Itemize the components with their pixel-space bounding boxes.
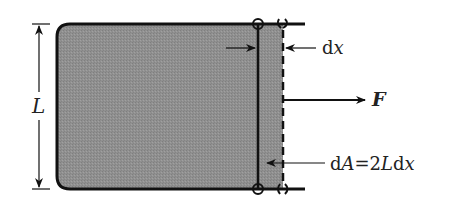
dx-label: dx: [322, 37, 344, 58]
film-increment-dA: [258, 24, 283, 189]
soap-film: [57, 24, 258, 189]
area-change-label: dA=2Ldx: [330, 153, 415, 174]
soap-film-diagram: L dx F dA=2Ldx: [0, 0, 465, 211]
length-label: L: [31, 94, 45, 118]
force-label: F: [371, 88, 387, 110]
